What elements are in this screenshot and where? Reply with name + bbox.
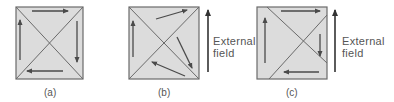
panel-a [16,7,83,79]
external-field-line2: field [213,47,256,59]
external-field-line2: field [342,47,385,59]
domain-diagram [0,0,394,102]
external-field-line1: External [342,35,385,47]
panel-c [257,7,335,79]
panel-c-label: (c) [286,87,298,98]
panel-a-label: (a) [44,87,56,98]
external-field-label-b: External field [213,35,256,59]
external-field-label-c: External field [342,35,385,59]
panel-b-label: (b) [158,87,170,98]
panel-b [129,7,208,79]
domain-square [257,7,327,79]
external-field-line1: External [213,35,256,47]
